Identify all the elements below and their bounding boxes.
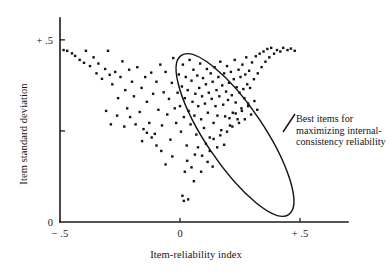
data-point (190, 79, 192, 81)
y-tick-label-0: 0 (48, 217, 53, 228)
data-point (133, 95, 135, 97)
data-point (181, 85, 183, 87)
data-point (148, 122, 150, 124)
data-point (162, 91, 164, 93)
data-point (129, 116, 131, 118)
data-point (193, 114, 195, 116)
data-point (119, 76, 121, 78)
data-point (62, 49, 64, 51)
data-point (194, 93, 196, 95)
data-point (128, 69, 130, 71)
data-point (192, 69, 194, 71)
data-point (168, 98, 170, 100)
data-point (258, 53, 260, 55)
data-point (95, 72, 97, 74)
data-point (257, 72, 259, 74)
data-point (239, 76, 241, 78)
data-point (123, 125, 125, 127)
data-point (197, 146, 199, 148)
data-point (210, 72, 212, 74)
data-point (224, 115, 226, 117)
data-point (111, 83, 113, 85)
data-point (276, 49, 278, 51)
data-point (174, 107, 176, 109)
data-point (196, 74, 198, 76)
data-point (176, 91, 178, 93)
data-point (155, 81, 157, 83)
data-point (121, 60, 123, 62)
data-point (199, 62, 201, 64)
data-point (172, 57, 174, 59)
data-point (212, 122, 214, 124)
data-point (217, 76, 219, 78)
data-point (230, 71, 232, 73)
data-point (169, 138, 171, 140)
data-point (179, 105, 181, 107)
data-point (229, 124, 231, 126)
data-point (203, 127, 205, 129)
data-point (260, 66, 262, 68)
data-point (160, 150, 162, 152)
data-point (244, 73, 246, 75)
data-point (286, 49, 288, 51)
data-point (161, 124, 163, 126)
data-point (166, 113, 168, 115)
data-point (216, 146, 218, 148)
data-point (117, 97, 119, 99)
data-point (186, 144, 188, 146)
y-tick-label-2: + .5 (37, 35, 53, 46)
callout-leader-line (283, 114, 295, 132)
data-point (241, 110, 243, 112)
data-point (188, 59, 190, 61)
data-point (264, 61, 266, 63)
data-point (144, 76, 146, 78)
data-point (208, 91, 210, 93)
data-point (178, 73, 180, 75)
data-point (150, 136, 152, 138)
data-point (184, 171, 186, 173)
data-point (124, 89, 126, 91)
data-point (245, 56, 247, 58)
data-point (214, 105, 216, 107)
data-point (116, 114, 118, 116)
data-point (104, 68, 106, 70)
data-point (270, 47, 272, 49)
data-point (216, 114, 218, 116)
data-point (201, 95, 203, 97)
data-point (232, 112, 234, 114)
data-point (152, 93, 154, 95)
annotation-line-1: Best items for (296, 113, 392, 125)
data-point (253, 78, 255, 80)
data-point (227, 99, 229, 101)
data-point (195, 133, 197, 135)
data-point (215, 89, 217, 91)
data-point (181, 195, 183, 197)
annotation-line-2: maximizing internal- (296, 125, 392, 137)
data-point (219, 134, 221, 136)
data-point (186, 160, 188, 162)
data-point (131, 81, 133, 83)
data-point (246, 83, 248, 85)
data-point (180, 130, 182, 132)
data-point (206, 161, 208, 163)
data-point (140, 87, 142, 89)
data-point (204, 102, 206, 104)
data-point (256, 109, 258, 111)
data-point (182, 63, 184, 65)
data-point (126, 107, 128, 109)
data-point (164, 163, 166, 165)
data-point (193, 180, 195, 182)
data-point (154, 133, 156, 135)
data-point (114, 71, 116, 73)
data-point (211, 165, 213, 167)
data-point (212, 138, 214, 140)
data-point (187, 198, 189, 200)
data-point (197, 105, 199, 107)
data-point (141, 140, 143, 142)
data-point (142, 128, 144, 130)
data-point (244, 118, 246, 120)
data-point (146, 101, 148, 103)
data-point (97, 62, 99, 64)
data-point (273, 53, 275, 55)
data-point (194, 153, 196, 155)
